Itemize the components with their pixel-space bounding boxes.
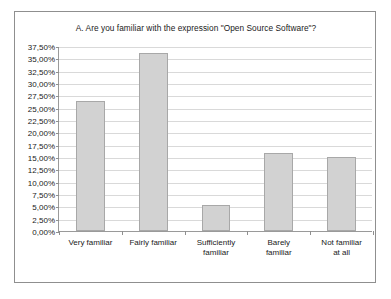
gridline <box>59 195 372 196</box>
y-axis-tick-mark <box>56 121 59 122</box>
y-axis-tick-mark <box>56 133 59 134</box>
gridline <box>59 133 372 134</box>
y-axis-tick-label: 37,50% <box>28 43 55 52</box>
chart-frame: A. Are you familiar with the expression … <box>14 11 376 283</box>
y-axis-tick-label: 10,00% <box>28 178 55 187</box>
y-axis-tick-mark <box>56 207 59 208</box>
y-axis-tick-label: 5,00% <box>32 203 55 212</box>
y-axis-tick-label: 35,00% <box>28 55 55 64</box>
y-axis-tick-mark <box>56 146 59 147</box>
y-axis-tick-mark <box>56 59 59 60</box>
x-axis-label: Very familiar <box>59 238 122 248</box>
bar <box>202 205 231 231</box>
x-axis-label: Not familiar at all <box>310 238 373 258</box>
y-axis-tick-label: 0,00% <box>32 228 55 237</box>
y-axis-tick-label: 7,50% <box>32 191 55 200</box>
y-axis-tick-label: 25,00% <box>28 104 55 113</box>
plot-area: 0,00%2,50%5,00%7,50%10,00%12,50%15,00%17… <box>58 47 372 232</box>
y-axis-tick-label: 20,00% <box>28 129 55 138</box>
y-axis-tick-mark <box>56 84 59 85</box>
bar <box>76 101 105 231</box>
gridline <box>59 72 372 73</box>
y-axis-tick-mark <box>56 72 59 73</box>
chart-title: A. Are you familiar with the expression … <box>15 23 377 33</box>
gridline <box>59 59 372 60</box>
y-axis-tick-label: 17,50% <box>28 141 55 150</box>
y-axis-tick-label: 12,50% <box>28 166 55 175</box>
bar <box>327 157 356 231</box>
gridline <box>59 47 372 48</box>
x-axis-label: Sufficiently familiar <box>185 238 248 258</box>
y-axis-tick-mark <box>56 220 59 221</box>
y-axis-tick-label: 27,50% <box>28 92 55 101</box>
x-axis-tick-mark <box>185 231 186 235</box>
x-axis-tick-mark <box>247 231 248 235</box>
x-axis-tick-mark <box>122 231 123 235</box>
y-axis-tick-label: 2,50% <box>32 215 55 224</box>
x-axis-tick-mark <box>59 231 60 235</box>
y-axis-tick-mark <box>56 195 59 196</box>
y-axis-tick-mark <box>56 47 59 48</box>
x-axis-label: Barely familiar <box>247 238 310 258</box>
y-axis-tick-mark <box>56 183 59 184</box>
y-axis-tick-label: 32,50% <box>28 67 55 76</box>
gridline <box>59 121 372 122</box>
y-axis-tick-label: 15,00% <box>28 154 55 163</box>
y-axis-tick-mark <box>56 109 59 110</box>
bar <box>264 153 293 231</box>
bar <box>139 53 168 231</box>
x-axis-label: Fairly familiar <box>122 238 185 248</box>
gridline <box>59 170 372 171</box>
y-axis-tick-mark <box>56 96 59 97</box>
gridline <box>59 84 372 85</box>
y-axis-tick-mark <box>56 158 59 159</box>
gridline <box>59 96 372 97</box>
gridline <box>59 109 372 110</box>
gridline <box>59 183 372 184</box>
gridline <box>59 146 372 147</box>
x-axis-tick-mark <box>310 231 311 235</box>
y-axis-tick-label: 30,00% <box>28 80 55 89</box>
y-axis-tick-label: 22,50% <box>28 117 55 126</box>
gridline <box>59 158 372 159</box>
x-axis-tick-mark <box>373 231 374 235</box>
y-axis-tick-mark <box>56 170 59 171</box>
